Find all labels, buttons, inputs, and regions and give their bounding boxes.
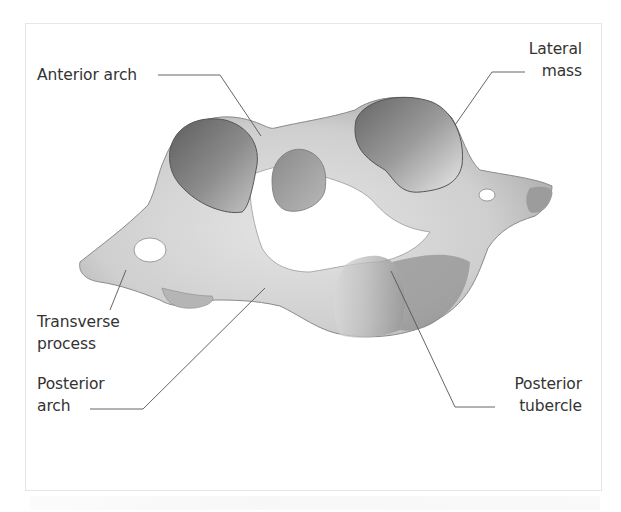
bone-ring: [80, 97, 553, 337]
label-posterior-arch: Posterior arch: [37, 373, 105, 417]
label-lateral-mass: Lateral mass: [520, 38, 582, 82]
leader-lateral-mass: [455, 72, 525, 125]
label-transverse-process: Transverse process: [37, 311, 120, 355]
caption-strip: [30, 496, 600, 510]
label-anterior-arch: Anterior arch: [37, 64, 137, 86]
label-posterior-tubercle: Posterior tubercle: [490, 373, 582, 417]
